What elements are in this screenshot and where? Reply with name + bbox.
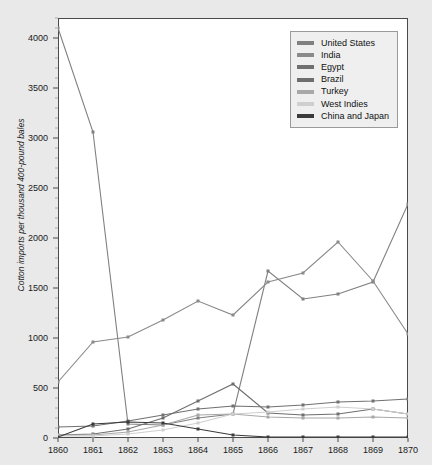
series-marker	[232, 405, 235, 408]
series-marker	[92, 341, 95, 344]
series-marker	[337, 293, 340, 296]
series-marker	[337, 413, 340, 416]
series-marker	[337, 241, 340, 244]
legend-item[interactable]: India	[297, 49, 389, 61]
series-marker	[267, 411, 270, 414]
legend-item[interactable]: China and Japan	[297, 110, 389, 122]
series-marker	[407, 413, 410, 416]
series-marker	[197, 414, 200, 417]
series-marker	[197, 408, 200, 411]
series-marker	[407, 203, 410, 206]
series-marker	[337, 401, 340, 404]
series-marker	[127, 421, 130, 424]
series-marker	[197, 428, 200, 431]
series-marker	[197, 300, 200, 303]
series-marker	[197, 400, 200, 403]
series-marker	[197, 422, 200, 425]
series-marker	[92, 131, 95, 134]
series-marker	[302, 298, 305, 301]
series-marker	[302, 272, 305, 275]
legend-swatch-icon	[297, 90, 314, 94]
series-marker	[302, 417, 305, 420]
legend-label: United States	[321, 39, 375, 48]
legend-swatch-icon	[297, 114, 314, 118]
series-marker	[337, 406, 340, 409]
legend-item[interactable]: Turkey	[297, 86, 389, 98]
series-marker	[232, 383, 235, 386]
series-marker	[407, 398, 410, 401]
legend-swatch-icon	[297, 53, 314, 57]
legend-label: West Indies	[321, 100, 368, 109]
series-line	[58, 242, 408, 382]
series-marker	[372, 416, 375, 419]
series-marker	[127, 428, 130, 431]
series-marker	[92, 423, 95, 426]
series-marker	[232, 434, 235, 437]
legend-swatch-icon	[297, 41, 314, 45]
series-marker	[127, 336, 130, 339]
series-line	[58, 384, 408, 435]
series-marker	[162, 429, 165, 432]
legend-item[interactable]: Brazil	[297, 74, 389, 86]
series-marker	[267, 270, 270, 273]
series-marker	[267, 281, 270, 284]
series-marker	[57, 381, 60, 384]
series-marker	[197, 417, 200, 420]
series-marker	[162, 414, 165, 417]
series-marker	[162, 422, 165, 425]
legend: United StatesIndiaEgyptBrazilTurkeyWest …	[290, 31, 398, 128]
series-marker	[162, 319, 165, 322]
legend-swatch-icon	[297, 102, 314, 106]
legend-swatch-icon	[297, 78, 314, 82]
series-marker	[407, 333, 410, 336]
series-marker	[267, 406, 270, 409]
series-marker	[302, 408, 305, 411]
legend-item[interactable]: West Indies	[297, 98, 389, 110]
series-marker	[92, 435, 95, 438]
series-marker	[372, 280, 375, 283]
series-marker	[127, 433, 130, 436]
legend-label: Brazil	[321, 75, 344, 84]
series-marker	[372, 400, 375, 403]
series-marker	[232, 413, 235, 416]
series-marker	[162, 417, 165, 420]
legend-label: India	[321, 51, 341, 60]
series-marker	[302, 414, 305, 417]
series-marker	[372, 408, 375, 411]
series-marker	[267, 416, 270, 419]
series-marker	[337, 417, 340, 420]
legend-swatch-icon	[297, 65, 314, 69]
figure-container: Cotton imports per thousand 400-pound ba…	[0, 0, 432, 465]
legend-item[interactable]: United States	[297, 37, 389, 49]
legend-item[interactable]: Egypt	[297, 61, 389, 73]
legend-label: Turkey	[321, 87, 348, 96]
series-marker	[407, 417, 410, 420]
legend-label: Egypt	[321, 63, 344, 72]
series-marker	[232, 314, 235, 317]
series-marker	[302, 404, 305, 407]
legend-label: China and Japan	[321, 112, 389, 121]
